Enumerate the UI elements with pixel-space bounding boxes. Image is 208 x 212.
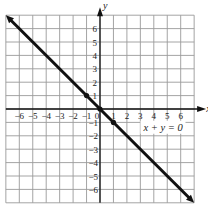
plotted-point xyxy=(97,106,102,111)
y-tick-label: −2 xyxy=(88,131,98,141)
y-tick-label: 5 xyxy=(93,38,98,48)
x-tick-label: 5 xyxy=(165,111,170,121)
x-tick-label: −4 xyxy=(41,111,51,121)
y-tick-label: 6 xyxy=(93,24,98,34)
axes xyxy=(6,7,206,203)
plotted-point xyxy=(111,120,116,125)
x-tick-label: 2 xyxy=(125,111,130,121)
plotted-point xyxy=(84,93,89,98)
y-tick-label: 4 xyxy=(93,51,98,61)
y-tick-label: 2 xyxy=(93,78,98,88)
x-axis-arrow-icon xyxy=(197,106,206,112)
x-tick-label: −6 xyxy=(15,111,25,121)
equation-label: x + y = 0 xyxy=(142,122,183,133)
x-tick-label: −2 xyxy=(68,111,78,121)
y-axis-label: y xyxy=(102,0,108,11)
y-tick-label: −4 xyxy=(88,158,98,168)
x-tick-label: 6 xyxy=(178,111,183,121)
x-tick-label: 4 xyxy=(152,111,157,121)
y-tick-label: −6 xyxy=(88,185,98,195)
x-tick-label: −5 xyxy=(28,111,38,121)
coordinate-plane: −6−5−4−3−2−10123456123456−1−2−3−4−5−6 x … xyxy=(0,0,208,212)
y-tick-label: −1 xyxy=(88,118,98,128)
y-tick-label: −3 xyxy=(88,145,98,155)
x-tick-label: 3 xyxy=(138,111,143,121)
y-tick-label: −5 xyxy=(88,172,98,182)
x-tick-label: −3 xyxy=(55,111,65,121)
y-tick-label: 1 xyxy=(93,91,98,101)
y-tick-label: 3 xyxy=(93,64,98,74)
x-axis-label: x xyxy=(205,103,208,114)
